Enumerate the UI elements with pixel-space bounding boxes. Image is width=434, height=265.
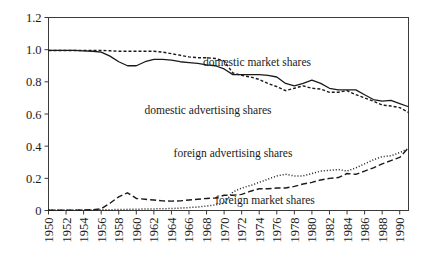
- series-annotation: foreign advertising shares: [174, 147, 293, 160]
- x-tick-label: 1984: [341, 217, 355, 243]
- chart-container: 00.20.40.60.81.01.2195019521954195619581…: [0, 0, 434, 265]
- y-tick-label: 1.2: [26, 11, 42, 25]
- series-annotation: domestic market shares: [203, 56, 311, 68]
- x-tick-label: 1960: [130, 218, 144, 243]
- x-tick-label: 1958: [112, 218, 126, 243]
- x-tick-label: 1986: [358, 218, 372, 243]
- y-tick-label: 0.8: [26, 75, 42, 89]
- x-tick-label: 1950: [42, 218, 56, 243]
- x-tick-label: 1968: [200, 218, 214, 243]
- x-tick-label: 1970: [218, 218, 232, 243]
- y-tick-label: 0.6: [26, 108, 42, 122]
- x-tick-label: 1978: [288, 218, 302, 243]
- x-tick-label: 1962: [147, 218, 161, 243]
- x-tick-label: 1980: [305, 218, 319, 243]
- y-tick-label: 1.0: [26, 43, 42, 57]
- x-tick-label: 1990: [393, 218, 407, 243]
- y-tick-label: 0.2: [26, 172, 42, 186]
- y-tick-label: 0.4: [26, 140, 42, 154]
- x-tick-label: 1974: [253, 217, 267, 243]
- series-annotation: foreign market shares: [215, 194, 315, 207]
- x-tick-label: 1956: [95, 218, 109, 243]
- x-tick-label: 1988: [376, 218, 390, 243]
- x-tick-label: 1966: [182, 218, 196, 243]
- line-chart: 00.20.40.60.81.01.2195019521954195619581…: [0, 0, 434, 265]
- x-tick-label: 1972: [235, 218, 249, 243]
- x-tick-label: 1964: [165, 217, 179, 243]
- x-tick-label: 1976: [270, 218, 284, 243]
- y-tick-label: 0: [35, 204, 41, 218]
- x-tick-label: 1952: [60, 218, 74, 243]
- series-annotation: domestic advertising shares: [144, 104, 272, 117]
- x-tick-label: 1954: [77, 217, 91, 243]
- x-tick-label: 1982: [323, 218, 337, 243]
